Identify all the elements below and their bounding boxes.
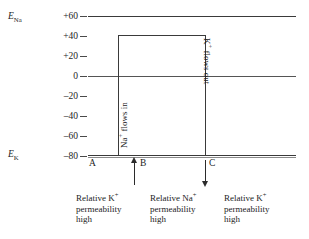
y-tick-mark-m40 (80, 116, 87, 117)
caption-phase-3-line2: permeability (224, 204, 298, 215)
y-tick-label-40: +40 (42, 32, 78, 42)
arrow-down-c-head (202, 181, 208, 187)
trace-resting-segment-a-b (88, 155, 119, 156)
point-label-a: A (89, 159, 96, 169)
e-na-subscript: Na (14, 16, 22, 23)
caption-phase-3-line1: Relative K+ (224, 190, 298, 204)
e-k-subscript: K (14, 154, 19, 161)
y-tick-label-m80: –80 (42, 152, 78, 162)
trace-peak-plateau (118, 35, 206, 36)
y-tick-label-m40: –40 (42, 112, 78, 122)
caption-phase-1-line2: permeability (76, 204, 150, 215)
point-label-c: C (209, 159, 215, 169)
y-tick-mark-m60 (80, 136, 87, 137)
caption-phase-2: Relative Na+ permeability high (150, 190, 224, 225)
y-tick-label-20: +20 (42, 52, 78, 62)
y-tick-mark-20 (80, 56, 87, 57)
y-tick-mark-0 (80, 76, 87, 77)
y-tick-mark-m20 (80, 96, 87, 97)
caption-phase-2-line2: permeability (150, 204, 224, 215)
y-tick-mark-40 (80, 36, 87, 37)
potassium-flows-out-label: K+ flows out (202, 38, 215, 84)
caption-phase-1-line1: Relative K+ (76, 190, 150, 204)
y-tick-mark-m80 (80, 156, 87, 157)
arrow-up-b-shaft (134, 163, 135, 185)
caption-phase-2-line3: high (150, 214, 224, 225)
caption-phase-3: Relative K+ permeability high (224, 190, 298, 225)
caption-phase-1: Relative K+ permeability high (76, 190, 150, 225)
y-tick-mark-60 (80, 16, 87, 17)
caption-phase-2-line1: Relative Na+ (150, 190, 224, 204)
y-tick-label-60: +60 (42, 12, 78, 22)
caption-phase-3-line3: high (224, 214, 298, 225)
action-potential-figure: ENa EK +60 +40 +20 0 –20 –40 –60 –80 Na+… (0, 0, 309, 239)
y-tick-label-0: 0 (42, 72, 78, 82)
trace-resting-segment-after-c (205, 155, 296, 156)
sodium-charge: + (117, 134, 124, 138)
y-tick-label-m20: –20 (42, 92, 78, 102)
potassium-flow-text: flows out (202, 48, 212, 84)
caption-phase-1-line3: high (76, 214, 150, 225)
e-na-reference-line (88, 16, 296, 17)
e-k-axis-label: EK (8, 150, 19, 162)
sodium-flows-in-label: Na+ flows in (116, 102, 129, 148)
point-label-b: B (140, 159, 146, 169)
arrow-up-b-head (131, 157, 137, 163)
sodium-flow-text: flows in (119, 102, 129, 134)
sodium-symbol: Na (119, 138, 129, 149)
e-na-axis-label: ENa (8, 12, 22, 24)
y-tick-label-m60: –60 (42, 132, 78, 142)
arrow-down-c-shaft (205, 160, 206, 182)
